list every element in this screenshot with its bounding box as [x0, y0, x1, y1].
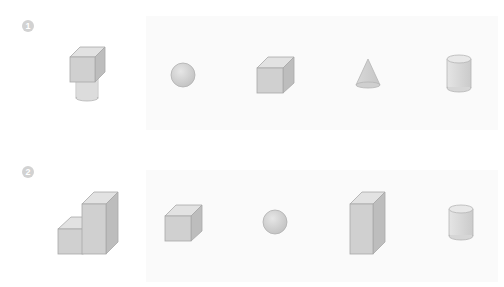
exercise-number-badge-2: 2 — [22, 166, 34, 178]
cube-on-cylinder-shape — [68, 44, 108, 104]
cylinder-shape-row-2 — [447, 204, 475, 242]
sphere-shape — [170, 62, 196, 88]
cube-shape-row-2 — [164, 203, 204, 243]
cone-shape — [354, 58, 382, 90]
tall-rectangular-prism-shape — [349, 190, 387, 256]
cube-shape — [256, 55, 296, 95]
exercise-number-badge-1: 1 — [22, 20, 34, 32]
cylinder-shape — [445, 54, 473, 94]
sphere-shape-row-2 — [262, 209, 288, 235]
stepped-blocks-shape — [57, 190, 121, 256]
